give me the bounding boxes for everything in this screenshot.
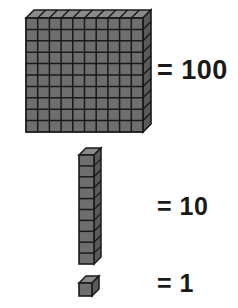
base-ten-blocks-diagram: = 100 [0,0,238,308]
hundred-flat-graphic [22,8,152,135]
unit-cube-graphic [76,274,102,300]
cube-front-face [79,283,92,296]
ten-equals-label: = 10 [157,194,208,219]
hundred-flat-block [22,8,152,135]
one-equals-label: = 1 [157,271,194,296]
hundred-equals-label: = 100 [157,57,228,84]
ten-rod-graphic [76,146,104,268]
unit-cube-block [76,274,102,300]
ten-rod-block [76,146,104,268]
